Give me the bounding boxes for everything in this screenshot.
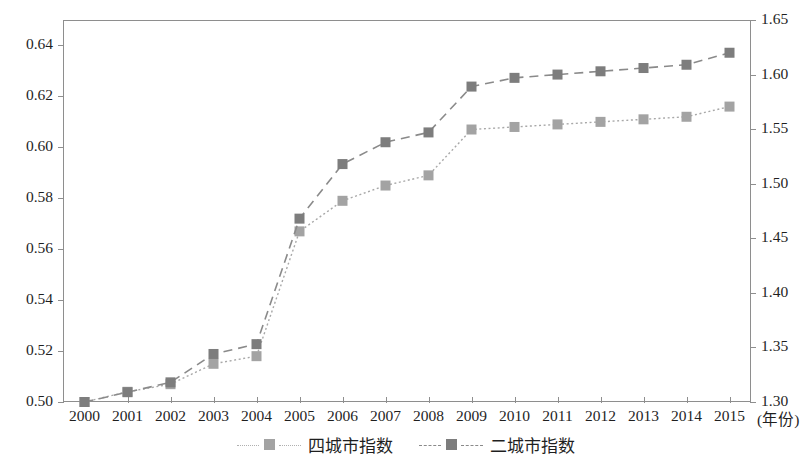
data-point-marker [295,214,305,224]
legend-item-1[interactable]: 四城市指数 [237,432,393,457]
data-point-marker [166,377,176,387]
data-point-marker [424,170,434,180]
data-point-marker [510,122,520,132]
data-point-marker [80,397,90,407]
data-point-marker [553,119,563,129]
data-point-marker [510,73,520,83]
data-point-marker [467,82,477,92]
data-point-marker [338,159,348,169]
data-point-marker [381,181,391,191]
data-point-marker [381,137,391,147]
legend-line-sample [237,439,301,451]
legend-line-sample [419,439,483,451]
series-line [85,107,730,402]
legend-label: 四城市指数 [308,432,393,457]
data-point-marker [338,196,348,206]
data-point-marker [596,66,606,76]
data-point-marker [553,70,563,80]
data-point-marker [639,63,649,73]
data-point-marker [123,387,133,397]
series-2 [80,48,735,407]
data-point-marker [209,359,219,369]
data-point-marker [682,60,692,70]
data-point-marker [725,48,735,58]
legend-item-2[interactable]: 二城市指数 [419,432,575,457]
data-point-marker [209,349,219,359]
legend-label: 二城市指数 [490,432,575,457]
data-point-marker [639,114,649,124]
legend-marker-swatch [446,439,457,450]
legend-marker-swatch [264,439,275,450]
data-point-marker [596,117,606,127]
chart-legend: 四城市指数二城市指数 [0,432,812,457]
series-line [85,53,730,402]
data-point-marker [682,112,692,122]
data-point-marker [725,102,735,112]
data-point-marker [424,127,434,137]
data-point-marker [252,351,262,361]
data-point-marker [252,339,262,349]
chart-figure: 0.500.520.540.560.580.600.620.64 1.301.3… [0,0,812,463]
x-axis-unit-label: (年份) [757,407,799,429]
series-layer [0,0,812,463]
data-point-marker [467,125,477,135]
series-1 [80,102,735,407]
